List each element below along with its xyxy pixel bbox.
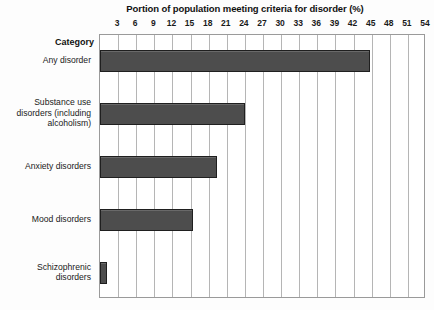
category-label-line: Anxiety disorders [0,161,91,172]
bar-chart-figure: Portion of population meeting criteria f… [0,0,434,310]
x-tick-label-54: 54 [420,18,429,28]
bar-2 [100,156,217,178]
x-tick-label-45: 45 [366,18,375,28]
category-label-line: Mood disorders [0,214,91,225]
category-label-line: Any disorder [0,55,91,66]
x-tick-label-21: 21 [221,18,230,28]
category-label-4: Schizophrenicdisorders [0,261,91,282]
chart-title: Portion of population meeting criteria f… [60,3,430,14]
category-label-line: alcoholism) [0,118,91,129]
category-label-line: disorders [0,272,91,283]
x-tick-label-27: 27 [257,18,266,28]
x-tick-label-9: 9 [151,18,156,28]
x-tick-label-15: 15 [185,18,194,28]
x-tick-label-3: 3 [115,18,120,28]
x-tick-label-12: 12 [167,18,176,28]
x-tick-label-6: 6 [133,18,138,28]
x-tick-label-42: 42 [348,18,357,28]
bar-1 [100,103,245,125]
bars-layer [100,35,424,297]
plot-area [99,34,425,298]
category-label-0: Any disorder [0,55,91,66]
x-tick-label-30: 30 [275,18,284,28]
category-label-line: disorders (including [0,108,91,119]
category-axis-labels: Any disorderSubstance usedisorders (incl… [0,34,95,298]
x-tick-label-18: 18 [203,18,212,28]
bar-4 [100,262,107,284]
category-label-line: Substance use [0,97,91,108]
category-label-3: Mood disorders [0,214,91,225]
bar-0 [100,50,370,72]
category-label-2: Anxiety disorders [0,161,91,172]
category-label-1: Substance usedisorders (includingalcohol… [0,97,91,129]
x-tick-label-36: 36 [312,18,321,28]
x-tick-label-39: 39 [330,18,339,28]
category-label-line: Schizophrenic [0,261,91,272]
x-tick-label-33: 33 [293,18,302,28]
x-axis-tick-labels: 369121518212427303336394245485154 [0,18,434,32]
x-tick-label-24: 24 [239,18,248,28]
x-tick-label-51: 51 [402,18,411,28]
bar-3 [100,209,193,231]
x-tick-label-48: 48 [384,18,393,28]
